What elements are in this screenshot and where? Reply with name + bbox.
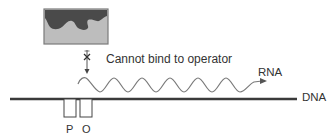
rna-label: RNA: [258, 67, 282, 79]
diagram-canvas: Cannot bind to operator RNA DNA P O: [0, 0, 332, 137]
blocked-binding-arrow: [84, 50, 90, 74]
promoter-site: [64, 99, 76, 117]
cannot-bind-caption: Cannot bind to operator: [106, 53, 232, 65]
operator-site: [80, 99, 92, 117]
repressor-protein: [44, 9, 108, 44]
rna-transcript: [78, 78, 267, 92]
operator-label: O: [82, 124, 91, 135]
promoter-label: P: [66, 124, 73, 135]
dna-label: DNA: [302, 92, 326, 104]
rna-arrowhead-icon: [260, 78, 267, 84]
